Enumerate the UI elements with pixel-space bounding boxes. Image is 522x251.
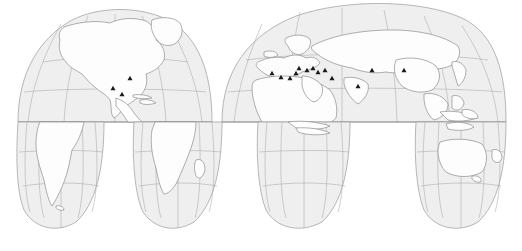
lobe-eurasia-africa-north: [222, 3, 506, 122]
lobe-indian-ocean: [257, 121, 350, 228]
world-map-figure: [0, 0, 522, 251]
land-australia-body: [438, 139, 487, 176]
lobe-south-america: [17, 122, 104, 228]
lobe-americas-north: [18, 10, 212, 123]
world-map-canvas: [0, 0, 522, 251]
lobe-africa-south: [133, 122, 222, 228]
ocean-fill-indian-ocean: [257, 122, 350, 228]
lobe-australia: [415, 122, 506, 228]
